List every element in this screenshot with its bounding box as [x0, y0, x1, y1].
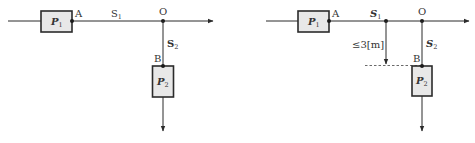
point-o-label: O	[418, 6, 426, 17]
point-b-dot	[161, 64, 165, 68]
point-a-dot	[70, 19, 74, 23]
s2-label: S2	[426, 38, 437, 51]
s1-label: S1	[370, 8, 381, 21]
point-a-label: A	[331, 8, 340, 19]
point-b-label: B	[413, 53, 420, 64]
pipe-junction-diagrams: P1 A S1 O S2 B P2 P1 A S1 ≤3[m] O S2 B P…	[0, 0, 475, 143]
diagram-right: P1 A S1 ≤3[m] O S2 B P2	[266, 6, 469, 131]
distance-label: ≤3[m]	[352, 39, 384, 50]
s1-label: S1	[111, 8, 122, 21]
s2-label: S2	[167, 38, 178, 51]
point-a-dot	[327, 19, 331, 23]
point-o-label: O	[159, 6, 167, 17]
diagram-left: P1 A S1 O S2 B P2	[8, 6, 213, 131]
point-b-dot	[420, 64, 424, 68]
point-b-label: B	[154, 53, 161, 64]
point-a-label: A	[74, 8, 83, 19]
